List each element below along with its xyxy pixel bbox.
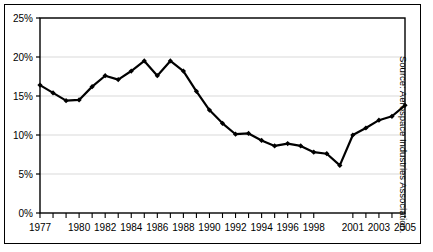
- svg-text:25%: 25%: [13, 13, 33, 24]
- source-note: Source: Aerospace Industries Association…: [398, 56, 409, 246]
- chart-figure: 0%5%10%15%20%25% 19771980198219841986198…: [0, 0, 433, 252]
- data-series-markers: [37, 58, 407, 168]
- svg-text:1998: 1998: [303, 222, 326, 233]
- svg-text:0%: 0%: [19, 208, 34, 219]
- svg-text:1986: 1986: [146, 222, 169, 233]
- svg-text:1984: 1984: [120, 222, 143, 233]
- svg-text:1996: 1996: [277, 222, 300, 233]
- data-series-lines: [40, 61, 405, 166]
- svg-text:5%: 5%: [19, 169, 34, 180]
- y-axis-tick-labels: 0%5%10%15%20%25%: [13, 13, 33, 219]
- svg-text:1994: 1994: [250, 222, 273, 233]
- svg-text:1992: 1992: [224, 222, 247, 233]
- svg-text:2001: 2001: [342, 222, 365, 233]
- x-axis-tick-labels: 1977198019821984198619881990199219941996…: [29, 222, 417, 233]
- chart-canvas: 0%5%10%15%20%25% 19771980198219841986198…: [0, 0, 433, 252]
- svg-text:1980: 1980: [68, 222, 91, 233]
- svg-text:10%: 10%: [13, 130, 33, 141]
- svg-text:1990: 1990: [198, 222, 221, 233]
- svg-text:2003: 2003: [368, 222, 391, 233]
- plot-area-border: [40, 18, 405, 213]
- svg-text:1977: 1977: [29, 222, 52, 233]
- svg-text:15%: 15%: [13, 91, 33, 102]
- svg-text:1988: 1988: [172, 222, 195, 233]
- x-axis-ticks: [40, 213, 405, 218]
- svg-text:1982: 1982: [94, 222, 117, 233]
- svg-text:20%: 20%: [13, 52, 33, 63]
- gridlines: [40, 18, 405, 174]
- line-chart-svg: 0%5%10%15%20%25% 19771980198219841986198…: [0, 0, 433, 252]
